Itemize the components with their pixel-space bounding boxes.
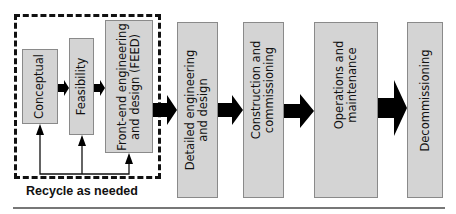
arrow-right-icon	[284, 94, 314, 128]
recycle-label: Recycle as needed	[26, 184, 138, 198]
recycle-feedback-lines	[40, 134, 129, 174]
arrow-right-icon	[378, 80, 407, 136]
arrow-up-icon	[78, 135, 86, 146]
arrow-right-icon	[218, 95, 243, 125]
arrow-up-icon	[125, 153, 133, 164]
arrows-overlay	[0, 0, 456, 214]
arrow-right-icon	[153, 95, 177, 125]
arrow-right-icon	[94, 80, 105, 96]
arrow-right-icon	[58, 80, 69, 96]
bottom-rule	[13, 207, 445, 209]
arrow-up-icon	[36, 124, 44, 135]
